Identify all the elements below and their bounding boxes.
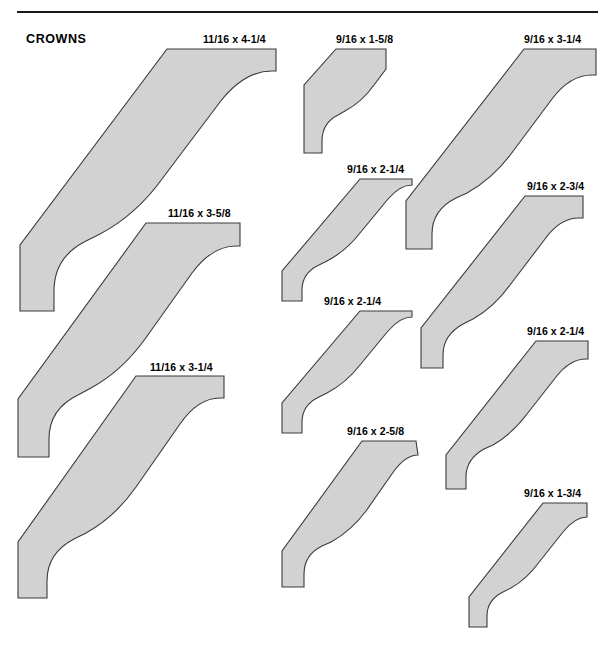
molding-profile-shape [300, 45, 392, 165]
profile-dimension-label: 11/16 x 3-1/4 [150, 361, 213, 373]
molding-profile-shape [276, 307, 416, 442]
profile-dimension-label: 9/16 x 2-1/4 [347, 163, 404, 175]
molding-profile-shape [276, 175, 416, 310]
profile-dimension-label: 9/16 x 1-3/4 [524, 487, 581, 499]
profile-dimension-label: 9/16 x 2-1/4 [527, 325, 584, 337]
profile-dimension-label: 9/16 x 1-5/8 [336, 33, 393, 45]
profile-dimension-label: 9/16 x 2-1/4 [324, 295, 381, 307]
profile-dimension-label: 9/16 x 3-1/4 [524, 33, 581, 45]
page-title: CROWNS [26, 32, 87, 46]
header-divider-rule [17, 11, 598, 13]
molding-profile-shape [463, 499, 595, 649]
molding-profile-shape [12, 372, 254, 640]
profile-dimension-label: 9/16 x 2-5/8 [347, 425, 404, 437]
profile-dimension-label: 11/16 x 3-5/8 [168, 207, 231, 219]
profile-dimension-label: 11/16 x 4-1/4 [203, 33, 266, 45]
molding-profile-shape [276, 437, 426, 597]
catalog-page: CROWNS 11/16 x 4-1/411/16 x 3-5/811/16 x… [0, 0, 615, 662]
profile-dimension-label: 9/16 x 2-3/4 [527, 180, 584, 192]
molding-profile-shape [440, 337, 595, 512]
